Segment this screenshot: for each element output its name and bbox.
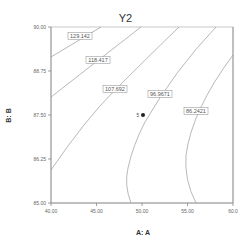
contour-plot: 40.0045.0050.0055.0060.085.0086.2587.508… [0, 0, 251, 247]
contour-label: 96.9671 [150, 91, 170, 97]
y-tick-label: 87.50 [33, 112, 46, 118]
y-tick-label: 88.75 [33, 68, 46, 74]
x-tick-label: 40.00 [45, 208, 58, 214]
design-points: 5 [136, 113, 145, 118]
y-tick-label: 90.00 [33, 24, 46, 30]
contour-labels: 129.142118.417107.69296.967186.2421 [68, 33, 208, 115]
contour-label: 107.692 [105, 86, 125, 92]
contour-label: 118.417 [88, 57, 107, 63]
x-tick-label: 55.00 [181, 208, 194, 214]
x-tick-label: 50.00 [136, 208, 149, 214]
contour-line [127, 27, 216, 203]
y-axis-label: B: B [5, 96, 12, 136]
x-tick-label: 45.00 [90, 208, 103, 214]
y-tick-label: 85.00 [33, 200, 46, 206]
contour-line [51, 27, 101, 57]
design-point-label: 5 [136, 113, 139, 118]
axes: 40.0045.0050.0055.0060.085.0086.2587.508… [33, 24, 238, 214]
y-tick-label: 86.25 [33, 156, 46, 162]
contour-label: 86.2421 [186, 108, 206, 114]
x-axis-label: A: A [0, 229, 251, 236]
contour-label: 129.142 [70, 33, 90, 39]
x-tick-label: 60.0 [228, 208, 238, 214]
contour-line [186, 55, 233, 203]
design-point-marker [141, 113, 145, 117]
